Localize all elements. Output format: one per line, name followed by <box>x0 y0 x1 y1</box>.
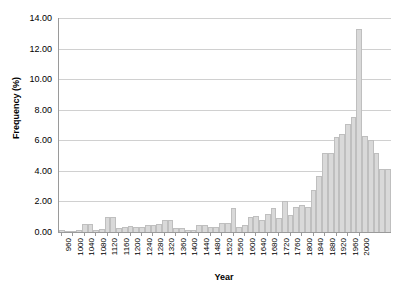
x-axis-tick-label: 1000 <box>76 238 85 256</box>
x-axis-tick-mark <box>152 233 153 236</box>
x-axis-tick-mark <box>313 233 314 236</box>
x-axis-tick-mark <box>290 233 291 236</box>
y-axis-tick-label: 8.00 <box>34 105 52 115</box>
x-axis-tick-label: 1360 <box>179 238 188 256</box>
x-axis-title: Year <box>58 272 390 282</box>
x-axis-tick-label: 1320 <box>167 238 176 256</box>
x-axis-tick-label: 1680 <box>270 238 279 256</box>
x-axis-tick-mark <box>164 233 165 236</box>
x-axis-tick-mark <box>61 233 62 236</box>
x-axis-tick-label: 1720 <box>282 238 291 256</box>
x-axis-tick-mark <box>130 233 131 236</box>
x-axis-tick-label: 1400 <box>190 238 199 256</box>
x-axis-tick-label: 1040 <box>87 238 96 256</box>
plot-area <box>58 18 391 233</box>
x-axis-tick-label: 2000 <box>362 238 371 256</box>
y-axis-tick-label: 10.00 <box>29 74 52 84</box>
x-axis-tick-label: 1160 <box>122 238 131 255</box>
x-axis-tick-mark <box>324 233 325 236</box>
x-axis-tick-label: 1080 <box>99 238 108 256</box>
x-axis-tick-labels: 9601000104010801120116012001240128013201… <box>58 233 390 273</box>
x-axis-tick-label: 960 <box>64 238 73 251</box>
x-axis-tick-mark <box>175 233 176 236</box>
x-axis-tick-label: 1280 <box>156 238 165 256</box>
x-axis-tick-label: 1600 <box>248 238 257 256</box>
x-axis-tick-mark <box>210 233 211 236</box>
x-axis-tick-label: 1520 <box>225 238 234 256</box>
x-axis-tick-mark <box>278 233 279 236</box>
x-axis-tick-label: 1560 <box>236 238 245 256</box>
x-axis-tick-mark <box>118 233 119 236</box>
x-axis-tick-label: 1960 <box>351 238 360 256</box>
x-axis-tick-label: 1640 <box>259 238 268 256</box>
x-axis-tick-label: 1200 <box>133 238 142 256</box>
x-axis-tick-mark <box>359 233 360 236</box>
x-axis-tick-mark <box>107 233 108 236</box>
x-axis-tick-label: 1240 <box>145 238 154 256</box>
y-axis-tick-label: 14.00 <box>29 13 52 23</box>
x-axis-tick-label: 1120 <box>110 238 119 255</box>
x-axis-tick-mark <box>84 233 85 236</box>
x-axis-tick-mark <box>233 233 234 236</box>
x-axis-tick-mark <box>336 233 337 236</box>
x-axis-tick-label: 1840 <box>316 238 325 256</box>
x-axis-tick-label: 1920 <box>339 238 348 256</box>
bar-series <box>59 18 391 232</box>
x-axis-tick-label: 1880 <box>328 238 337 256</box>
y-axis-tick-labels: 0.002.004.006.008.0010.0012.0014.00 <box>0 0 56 291</box>
x-axis-tick-mark <box>198 233 199 236</box>
x-axis-tick-mark <box>95 233 96 236</box>
x-axis-tick-mark <box>221 233 222 236</box>
x-axis-tick-label: 1760 <box>293 238 302 256</box>
bar <box>385 169 391 232</box>
x-axis-tick-mark <box>187 233 188 236</box>
y-axis-tick-label: 4.00 <box>34 166 52 176</box>
y-axis-tick-label: 2.00 <box>34 196 52 206</box>
x-axis-tick-mark <box>72 233 73 236</box>
y-axis-tick-label: 0.00 <box>34 227 52 237</box>
x-axis-tick-mark <box>301 233 302 236</box>
y-axis-tick-label: 12.00 <box>29 44 52 54</box>
x-axis-tick-mark <box>141 233 142 236</box>
x-axis-tick-label: 1440 <box>202 238 211 256</box>
x-axis-tick-mark <box>267 233 268 236</box>
x-axis-tick-mark <box>347 233 348 236</box>
y-axis-tick-label: 6.00 <box>34 135 52 145</box>
frequency-histogram-chart: Frequency (%) 0.002.004.006.008.0010.001… <box>0 0 407 291</box>
x-axis-tick-label: 1480 <box>213 238 222 256</box>
x-axis-tick-label: 1800 <box>305 238 314 256</box>
x-axis-tick-mark <box>255 233 256 236</box>
x-axis-tick-mark <box>244 233 245 236</box>
